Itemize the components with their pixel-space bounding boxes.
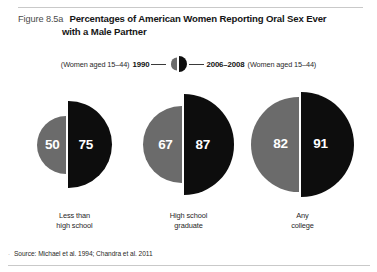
half-circle-pair-1: 67 87 [143, 94, 235, 195]
value-label-1990-2: 82 [273, 138, 287, 152]
source-note: Source: Michael et al. 1994; Chandra et … [14, 250, 153, 257]
legend-swatch-1990 [171, 58, 178, 71]
chart-group-1: 67 87 [132, 82, 246, 207]
legend-right-year: 2006–2008 [206, 60, 247, 69]
category-label-2: Any college [246, 211, 360, 230]
value-label-2006-2008-0: 75 [78, 138, 92, 152]
top-rule [18, 7, 363, 8]
category-axis-labels: Less than high school High school gradua… [0, 211, 377, 230]
source-row: · Source: Michael et al. 1994; Chandra e… [8, 250, 153, 257]
page-title: Percentages of American Women Reporting … [62, 13, 363, 38]
category-label-2-line2: college [291, 221, 314, 230]
figure-title-line1: Percentages of American Women Reporting … [69, 13, 326, 24]
chart-group-2: 82 91 [246, 82, 360, 207]
figure-title-block: Figure 8.5a Percentages of American Wome… [18, 13, 363, 38]
chart-plot-area: 50 75 67 87 82 [0, 82, 377, 207]
half-circle-pair-0: 50 75 [37, 101, 112, 188]
value-label-1990-0: 50 [45, 138, 59, 152]
figure-number: Figure 8.5a [18, 13, 69, 26]
figure-container: Figure 8.5a Percentages of American Wome… [0, 0, 377, 272]
category-label-2-line1: Any [296, 211, 308, 220]
half-circle-2006-2008-0: 75 [68, 101, 112, 188]
category-label-0-line2: high school [56, 221, 92, 230]
bottom-rule [8, 265, 370, 266]
category-label-0: Less than high school [18, 211, 132, 230]
value-label-2006-2008-2: 91 [313, 138, 327, 152]
half-circle-pair-2: 82 91 [251, 92, 354, 198]
chart-legend: (Women aged 15–44) 1990 2006–2008 (Women… [0, 55, 377, 73]
half-circle-2006-2008-1: 87 [184, 94, 234, 195]
chart-group-0: 50 75 [18, 82, 132, 207]
half-circle-1990-2: 82 [251, 97, 299, 192]
half-circle-2006-2008-2: 91 [301, 92, 354, 198]
legend-left-dash [151, 64, 166, 65]
category-label-0-line1: Less than [59, 211, 90, 220]
split-circle-icon [169, 56, 186, 73]
category-label-1: High school graduate [132, 211, 246, 230]
category-label-1-line1: High school [170, 211, 208, 220]
figure-title-line2: with a Male Partner [62, 26, 147, 37]
legend-left-year: 1990 [129, 60, 149, 69]
value-label-1990-1: 67 [158, 138, 172, 152]
value-label-2006-2008-1: 87 [195, 138, 209, 152]
category-label-1-line2: graduate [174, 221, 202, 230]
legend-right-note: (Women aged 15–44) [248, 60, 317, 69]
half-circle-1990-0: 50 [37, 116, 66, 174]
source-bullet-icon: · [8, 251, 10, 257]
half-circle-1990-1: 67 [143, 106, 182, 184]
legend-right-dash [189, 64, 204, 65]
legend-left-note: (Women aged 15–44) [61, 60, 130, 69]
legend-swatch-2006-2008 [179, 56, 187, 72]
